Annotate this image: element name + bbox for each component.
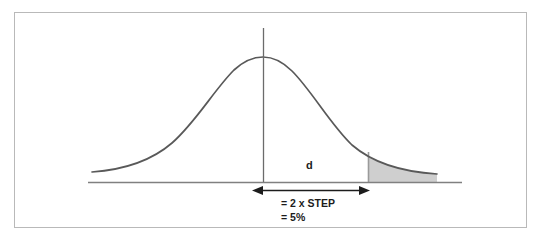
distance-label: d xyxy=(306,160,313,171)
arrow-head-right-icon xyxy=(359,186,370,195)
figure-page: d = 2 x STEP = 5% xyxy=(0,0,539,242)
normal-distribution-plot xyxy=(0,0,539,242)
arrow-head-left-icon xyxy=(252,186,263,195)
percent-equation-label: = 5% xyxy=(281,212,305,223)
bell-curve xyxy=(92,57,437,174)
step-equation-label: = 2 x STEP xyxy=(281,198,335,209)
d-span-arrow xyxy=(252,186,370,195)
page-bottom-margin xyxy=(0,234,539,242)
